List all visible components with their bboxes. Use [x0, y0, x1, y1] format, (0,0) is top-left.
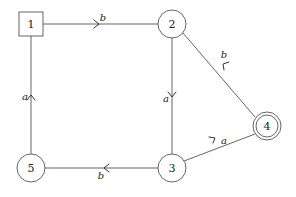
edge-2-to-3: a: [163, 38, 176, 154]
edge-label: a: [221, 135, 227, 146]
arrow-up-left-icon: [223, 62, 229, 70]
edge-1-to-2: b: [43, 12, 158, 29]
node-label: 5: [28, 162, 35, 175]
edge-label: b: [98, 170, 104, 181]
arrow-up-right-icon: [209, 137, 215, 143]
edge-5-to-1: a: [22, 36, 35, 154]
edge-label: a: [22, 91, 28, 102]
node-label: 3: [169, 162, 176, 175]
automaton-diagram: b a b a b a: [0, 0, 296, 197]
node-2: 2: [158, 10, 186, 38]
node-4: 4: [253, 112, 281, 140]
edge-3-to-5: b: [45, 164, 158, 181]
node-label: 4: [264, 120, 271, 133]
node-label: 1: [28, 18, 35, 31]
edge-4-to-2: b: [183, 33, 255, 117]
node-3: 3: [158, 154, 186, 182]
node-1: 1: [19, 12, 43, 36]
node-5: 5: [17, 154, 45, 182]
edge-label: b: [100, 12, 106, 23]
edge-3-to-4: a: [184, 134, 255, 161]
node-label: 2: [169, 18, 176, 31]
edge-label: a: [163, 93, 169, 104]
edge-label: b: [221, 49, 227, 60]
